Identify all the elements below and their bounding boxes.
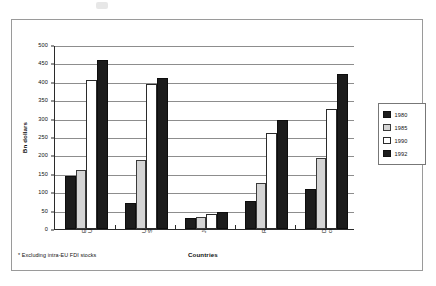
bar-group [245,46,287,229]
y-tick-label: 50 [22,209,48,215]
legend-swatch [383,137,391,145]
x-tick-mark [115,225,116,229]
chart-border: Bn dollars 05010015020025030035040045050… [11,19,423,271]
bar[interactable] [217,212,228,229]
y-tick-label: 150 [22,172,48,178]
legend-swatch [383,124,391,132]
bar[interactable] [305,189,316,229]
legend-swatch [383,150,391,158]
legend-item[interactable]: 1980 [383,108,422,121]
legend-label: 1990 [395,138,408,144]
legend-item[interactable]: 1985 [383,121,422,134]
y-tick-label: 500 [22,43,48,49]
bar-group [65,46,107,229]
bar-group [125,46,167,229]
bar[interactable] [316,158,327,229]
y-tick-label: 200 [22,154,48,160]
footnote: * Excluding intra-EU FDI stocks [18,252,96,258]
bar[interactable] [65,176,76,229]
chart-figure: Bn dollars 05010015020025030035040045050… [0,0,436,286]
x-axis-title: Countries [188,251,218,258]
y-tick-label: 300 [22,117,48,123]
bar[interactable] [146,84,157,229]
y-tick-label: 0 [22,227,48,233]
legend-item[interactable]: 1990 [383,134,422,147]
x-tick-mark [295,225,296,229]
bar[interactable] [97,60,108,229]
bar[interactable] [185,218,196,229]
bar[interactable] [206,214,217,229]
legend-label: 1985 [395,125,408,131]
bar[interactable] [326,109,337,229]
bar[interactable] [125,203,136,229]
legend: 1980198519901992 [378,103,426,165]
scan-artifact [96,2,108,9]
bar[interactable] [337,74,348,229]
y-tick-label: 450 [22,62,48,68]
plot-area [54,46,354,230]
x-tick-mark [235,225,236,229]
bar-group [185,46,227,229]
legend-label: 1980 [395,112,408,118]
bar[interactable] [256,183,267,229]
legend-item[interactable]: 1992 [383,147,422,160]
legend-swatch [383,111,391,119]
bar[interactable] [157,78,168,229]
y-tick-label: 400 [22,80,48,86]
bar[interactable] [76,170,87,229]
bar[interactable] [136,160,147,229]
bar[interactable] [266,133,277,229]
bar[interactable] [86,80,97,229]
y-tick-label: 250 [22,135,48,141]
bar-group [305,46,347,229]
bar[interactable] [196,217,207,229]
bar[interactable] [277,120,288,229]
legend-label: 1992 [395,151,408,157]
bar[interactable] [245,201,256,229]
y-tick-label: 350 [22,98,48,104]
y-tick-label: 100 [22,190,48,196]
x-tick-mark [175,225,176,229]
